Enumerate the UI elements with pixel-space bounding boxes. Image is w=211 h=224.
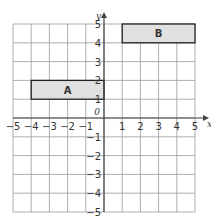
- y-tick-label: −4: [86, 188, 101, 199]
- y-tick-label: 5: [95, 19, 101, 30]
- x-tick-label: 1: [119, 121, 125, 132]
- rectangle-a: A: [31, 80, 104, 99]
- coordinate-grid: AB xy −5−4−3−2−11234554321−1−2−3−4−50: [0, 0, 211, 224]
- y-axis-arrow-icon: [101, 12, 107, 18]
- y-tick-label: 2: [95, 75, 101, 86]
- shape-label: B: [155, 28, 163, 39]
- x-tick-label: −3: [42, 121, 57, 132]
- x-tick-label: −2: [60, 121, 75, 132]
- x-axis-label: x: [207, 119, 211, 129]
- y-tick-label: 3: [95, 57, 101, 68]
- x-tick-label: 2: [137, 121, 143, 132]
- y-tick-label: 1: [95, 94, 101, 105]
- x-tick-label: 3: [155, 121, 161, 132]
- origin-label: 0: [94, 107, 100, 117]
- y-tick-label: 4: [95, 38, 101, 49]
- x-tick-label: −4: [24, 121, 39, 132]
- y-tick-label: −3: [86, 169, 101, 180]
- x-tick-label: 4: [174, 121, 180, 132]
- x-tick-label: 5: [192, 121, 198, 132]
- rectangle-b: B: [122, 24, 195, 43]
- x-tick-label: −5: [6, 121, 21, 132]
- x-tick-label: −1: [78, 121, 93, 132]
- shape-label: A: [64, 85, 72, 96]
- y-tick-label: −5: [86, 207, 101, 218]
- y-tick-label: −2: [86, 151, 101, 162]
- y-tick-label: −1: [86, 132, 101, 143]
